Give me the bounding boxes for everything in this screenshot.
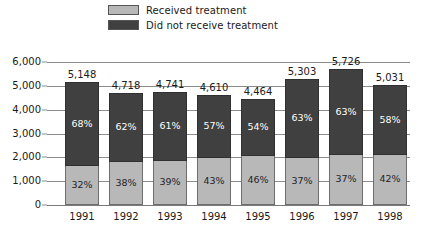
segment-percent-label: 58%	[379, 115, 400, 125]
segment-percent-label: 39%	[159, 177, 180, 187]
bar-total-label: 5,726	[332, 56, 361, 67]
bar-1997[interactable]: 5,72663%37%1997	[329, 69, 363, 205]
x-axis-tick-label: 1991	[69, 211, 94, 222]
segment-percent-label: 38%	[115, 178, 136, 188]
legend-swatch-received	[108, 5, 139, 15]
legend-swatch-not-received	[108, 20, 139, 30]
bar-segment-not-received[interactable]: 57%	[197, 95, 231, 158]
x-axis-tick-label: 1997	[333, 211, 358, 222]
segment-percent-label: 62%	[115, 122, 136, 132]
chart-plot-area: 6,0005,0004,0003,0002,0001,00005,14868%3…	[47, 62, 410, 205]
y-axis-tick-mark	[42, 133, 47, 134]
bar-segment-not-received[interactable]: 61%	[153, 92, 187, 161]
y-axis-tick-label: 2,000	[12, 152, 41, 162]
segment-percent-label: 63%	[291, 113, 312, 123]
x-axis-tick-label: 1992	[113, 211, 138, 222]
bar-1991[interactable]: 5,14868%32%1991	[65, 82, 99, 205]
segment-percent-label: 37%	[291, 176, 312, 186]
bar-segment-received[interactable]: 46%	[241, 156, 275, 205]
segment-percent-label: 42%	[379, 174, 400, 184]
x-axis-tick-label: 1996	[289, 211, 314, 222]
x-axis-tick-label: 1993	[157, 211, 182, 222]
x-axis-tick-label: 1995	[245, 211, 270, 222]
y-axis-tick-label: 6,000	[12, 57, 41, 67]
y-axis-tick-mark	[42, 62, 47, 63]
y-axis-tick-mark	[42, 109, 47, 110]
y-axis-tick-mark	[42, 85, 47, 86]
bar-total-label: 5,031	[376, 72, 405, 83]
bar-segment-received[interactable]: 32%	[65, 166, 99, 205]
x-axis-tick-label: 1994	[201, 211, 226, 222]
segment-percent-label: 63%	[335, 107, 356, 117]
y-axis-tick-label: 3,000	[12, 129, 41, 139]
segment-percent-label: 32%	[71, 180, 92, 190]
y-axis-tick-label: 0	[35, 200, 41, 210]
segment-percent-label: 54%	[247, 122, 268, 132]
x-axis-tick-label: 1998	[377, 211, 402, 222]
bar-segment-received[interactable]: 39%	[153, 161, 187, 205]
legend-item-not-received: Did not receive treatment	[108, 19, 278, 31]
bar-total-label: 4,464	[244, 86, 273, 97]
bar-segment-not-received[interactable]: 54%	[241, 99, 275, 156]
bar-segment-not-received[interactable]: 68%	[65, 82, 99, 165]
bar-total-label: 5,148	[68, 69, 97, 80]
bar-total-label: 4,741	[156, 79, 185, 90]
gridline	[47, 205, 410, 206]
legend-label-received: Received treatment	[146, 5, 247, 16]
legend-item-received: Received treatment	[108, 4, 278, 16]
segment-percent-label: 57%	[203, 121, 224, 131]
bar-total-label: 4,718	[112, 80, 141, 91]
bar-segment-not-received[interactable]: 63%	[329, 69, 363, 155]
legend-label-not-received: Did not receive treatment	[146, 20, 278, 31]
segment-percent-label: 37%	[335, 174, 356, 184]
bar-1992[interactable]: 4,71862%38%1992	[109, 93, 143, 205]
y-axis-tick-mark	[42, 157, 47, 158]
bar-segment-received[interactable]: 38%	[109, 162, 143, 205]
bar-1995[interactable]: 4,46454%46%1995	[241, 99, 275, 205]
segment-percent-label: 68%	[71, 119, 92, 129]
y-axis-tick-label: 4,000	[12, 105, 41, 115]
bar-segment-not-received[interactable]: 62%	[109, 93, 143, 163]
bar-segment-received[interactable]: 37%	[285, 158, 319, 205]
y-axis-tick-mark	[42, 205, 47, 206]
bar-total-label: 5,303	[288, 66, 317, 77]
bar-segment-received[interactable]: 42%	[373, 155, 407, 205]
segment-percent-label: 61%	[159, 121, 180, 131]
bar-segment-not-received[interactable]: 58%	[373, 85, 407, 155]
segment-percent-label: 43%	[203, 176, 224, 186]
bar-1994[interactable]: 4,61057%43%1994	[197, 95, 231, 205]
y-axis-tick-label: 5,000	[12, 81, 41, 91]
bar-1993[interactable]: 4,74161%39%1993	[153, 92, 187, 205]
bar-segment-not-received[interactable]: 63%	[285, 79, 319, 159]
bar-segment-received[interactable]: 37%	[329, 155, 363, 205]
bar-1996[interactable]: 5,30363%37%1996	[285, 79, 319, 205]
bar-segment-received[interactable]: 43%	[197, 158, 231, 205]
bar-1998[interactable]: 5,03158%42%1998	[373, 85, 407, 205]
segment-percent-label: 46%	[247, 175, 268, 185]
bar-total-label: 4,610	[200, 82, 229, 93]
y-axis-tick-mark	[42, 181, 47, 182]
chart-legend: Received treatment Did not receive treat…	[108, 4, 278, 31]
y-axis-tick-label: 1,000	[12, 176, 41, 186]
